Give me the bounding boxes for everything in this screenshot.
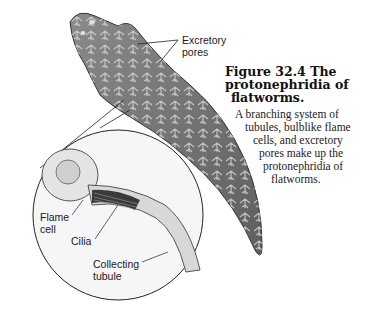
excretory-pores-pointer bbox=[160, 40, 178, 62]
figure-caption: A branching system of tubules, bulblike … bbox=[235, 108, 385, 186]
figure-title: Figure 32.4 The protonephridia of flatwo… bbox=[225, 65, 385, 104]
excretory-pores-label: Excretory pores bbox=[182, 34, 226, 58]
eyespot-icon bbox=[89, 20, 95, 24]
inset-connector bbox=[100, 110, 130, 128]
collecting-tubule-label: Collecting tubule bbox=[93, 258, 139, 282]
nucleus-shape bbox=[56, 160, 80, 184]
eyespot-icon bbox=[81, 31, 86, 35]
protonephridia-figure: Excretory pores Flame cell Cilia Collect… bbox=[0, 0, 385, 312]
flame-cell-label: Flame cell bbox=[40, 211, 69, 235]
cilia-label: Cilia bbox=[71, 235, 91, 247]
